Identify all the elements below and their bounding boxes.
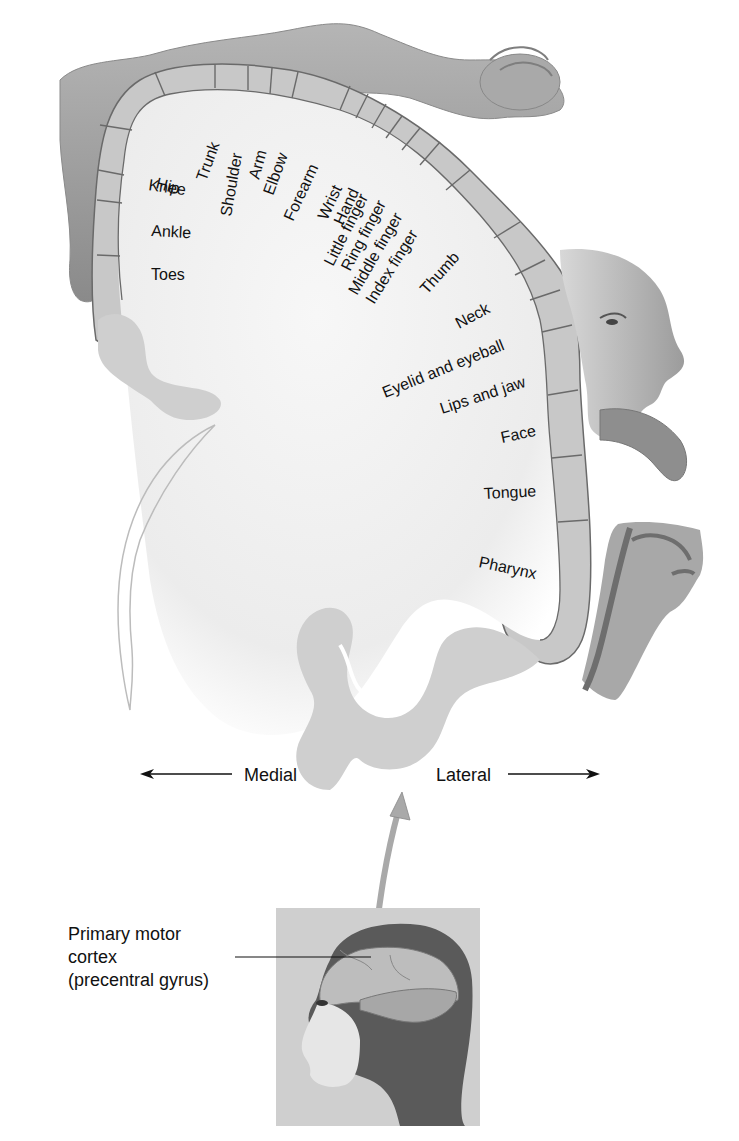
label-ankle: Ankle	[151, 222, 192, 241]
callout-primary-motor-cortex: Primary motor cortex (precentral gyrus)	[68, 924, 209, 990]
label-tongue: Tongue	[483, 482, 536, 502]
arrow-up-icon	[390, 792, 410, 820]
label-medial: Medial	[244, 765, 297, 785]
orientation-axis: Medial Lateral	[140, 765, 600, 785]
homunculus-diagram: Hip Trunk Knee Shoulder Arm Elbow Ankle …	[0, 0, 739, 1141]
callout-line-1: Primary motor	[68, 924, 181, 944]
pharynx-illustration	[582, 522, 703, 700]
callout-line-3: (precentral gyrus)	[68, 970, 209, 990]
callout-line-2: cortex	[68, 947, 117, 967]
tongue-illustration	[600, 409, 687, 481]
head-brain-illustration	[276, 908, 480, 1126]
label-toes: Toes	[151, 266, 185, 283]
label-lateral: Lateral	[436, 765, 491, 785]
lower-gyri	[296, 608, 540, 790]
